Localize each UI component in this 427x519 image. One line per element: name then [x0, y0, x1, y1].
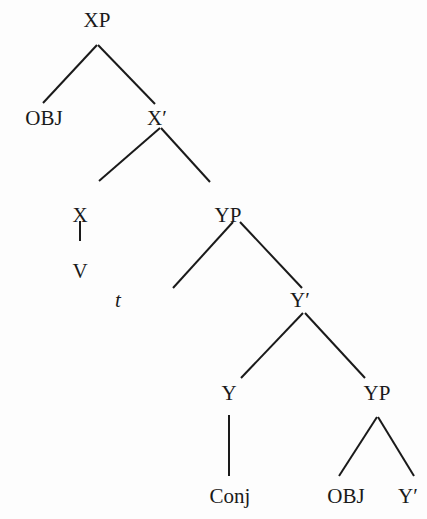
node-yp2: YP — [364, 381, 391, 405]
syntax-tree-diagram: XPOBJX′XYPVtY′YYPConjOBJY′ — [0, 0, 427, 519]
node-v: V — [72, 259, 87, 283]
tree-svg: XPOBJX′XYPVtY′YYPConjOBJY′ — [0, 0, 427, 519]
edge-yp1-ybar1 — [240, 222, 302, 288]
tree-labels: XPOBJX′XYPVtY′YYPConjOBJY′ — [25, 8, 418, 508]
node-x: X — [72, 203, 87, 227]
node-ybar1: Y′ — [290, 288, 310, 312]
node-obj1: OBJ — [25, 106, 62, 130]
edge-xp-xbar — [98, 45, 155, 104]
tree-edges — [43, 45, 414, 476]
edge-ybar1-y — [241, 313, 303, 378]
edge-xbar-yp1 — [161, 128, 210, 182]
node-xbar: X′ — [147, 106, 167, 130]
node-y: Y — [221, 381, 236, 405]
edge-yp2-obj2 — [339, 417, 377, 476]
node-obj2: OBJ — [327, 484, 364, 508]
edge-yp2-ybar2 — [378, 417, 414, 476]
node-yp1: YP — [215, 203, 242, 227]
edge-xp-obj1 — [43, 45, 97, 103]
edge-yp1-t — [173, 222, 233, 288]
node-xp: XP — [84, 8, 111, 32]
edge-xbar-x — [99, 128, 160, 181]
node-t: t — [115, 288, 122, 312]
node-conj: Conj — [210, 484, 251, 508]
node-ybar2: Y′ — [398, 484, 418, 508]
edge-ybar1-yp2 — [305, 313, 365, 378]
